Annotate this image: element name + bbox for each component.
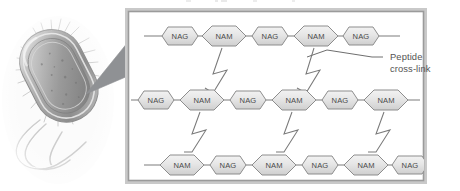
unit-nag-mid-1: NAG — [138, 91, 174, 109]
unit-nam-mid-1: NAM — [180, 90, 224, 110]
unit-nag-top-1: NAG — [162, 27, 198, 45]
unit-nam-top-1: NAM — [202, 26, 246, 46]
unit-label: NAM — [215, 32, 232, 41]
annotation-line-1: Peptide — [390, 51, 423, 62]
unit-nag-mid-2: NAG — [230, 91, 266, 109]
unit-label: NAG — [353, 32, 370, 41]
unit-label: NAG — [240, 96, 257, 105]
unit-nam-bot-3: NAM — [344, 155, 388, 175]
unit-nag-bot-3: NAG — [392, 156, 428, 174]
unit-nam-mid-2: NAM — [272, 90, 316, 110]
unit-nag-bot-1: NAG — [210, 156, 246, 174]
unit-label: NAM — [173, 161, 190, 170]
unit-nam-bot-2: NAM — [252, 155, 296, 175]
cut-off-title-fragment — [186, 0, 295, 2]
unit-nag-top-3: NAG — [343, 27, 379, 45]
unit-label: NAM — [357, 161, 374, 170]
unit-label: NAM — [285, 96, 302, 105]
unit-label: NAG — [312, 161, 329, 170]
figure-canvas: NAG NAM NAG NAM NAG — [0, 0, 460, 191]
unit-label: NAG — [332, 96, 349, 105]
peptidoglycan-figure: NAG NAM NAG NAM NAG — [0, 0, 460, 191]
unit-label: NAG — [262, 32, 279, 41]
unit-nam-mid-3: NAM — [364, 90, 408, 110]
unit-label: NAM — [307, 32, 324, 41]
unit-nam-bot-1: NAM — [160, 155, 204, 175]
annotation-line-2: cross-link — [390, 63, 431, 74]
unit-label: NAM — [377, 96, 394, 105]
unit-label: NAG — [148, 96, 165, 105]
unit-label: NAM — [193, 96, 210, 105]
unit-label: NAM — [265, 161, 282, 170]
unit-label: NAG — [172, 32, 189, 41]
unit-nam-top-2: NAM — [294, 26, 338, 46]
unit-nag-bot-2: NAG — [302, 156, 338, 174]
unit-label: NAG — [402, 161, 419, 170]
unit-nag-mid-3: NAG — [322, 91, 358, 109]
unit-label: NAG — [220, 161, 237, 170]
bacterium-micrograph — [0, 10, 116, 186]
unit-nag-top-2: NAG — [252, 27, 288, 45]
